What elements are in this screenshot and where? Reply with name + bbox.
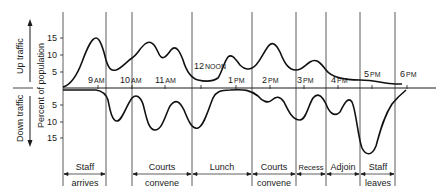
- down-traffic-curve: [63, 90, 406, 154]
- annotation-staff-leaves-bottom: leaves: [365, 178, 392, 188]
- svg-text:10: 10: [47, 50, 57, 60]
- annotation-staff-arrives-bottom: arrives: [71, 178, 99, 188]
- svg-text:9AM: 9AM: [88, 75, 105, 85]
- annotation-courts-convene-top: Courts: [149, 162, 176, 172]
- period-annotations: Staff arrives Courts convene Lunch Court…: [64, 162, 394, 188]
- annotation-recess: Recess: [298, 163, 323, 172]
- annotation-adjoin: Adjoin: [330, 162, 355, 172]
- annotation-courts-convene2-top: Courts: [261, 162, 288, 172]
- svg-text:15: 15: [47, 133, 57, 143]
- svg-text:15: 15: [47, 33, 57, 43]
- annotation-courts-convene2-bottom: convene: [257, 178, 291, 188]
- annotation-staff-arrives-top: Staff: [76, 162, 95, 172]
- annotation-staff-leaves-top: Staff: [369, 162, 388, 172]
- svg-text:11AM: 11AM: [155, 75, 176, 85]
- period-dividers: [63, 12, 395, 186]
- svg-text:2PM: 2PM: [262, 75, 279, 85]
- svg-text:3PM: 3PM: [297, 75, 314, 85]
- svg-text:5: 5: [52, 67, 57, 77]
- percent-population-label: Percent of population: [36, 43, 46, 128]
- y-axis-labels: Up traffic Down traffic Percent of popul…: [13, 19, 46, 147]
- svg-text:10AM: 10AM: [120, 75, 142, 85]
- svg-text:10: 10: [47, 117, 57, 127]
- annotation-courts-convene-bottom: convene: [145, 178, 179, 188]
- svg-text:5PM: 5PM: [364, 69, 381, 79]
- up-traffic-label: Up traffic: [15, 38, 25, 74]
- annotation-lunch: Lunch: [210, 162, 235, 172]
- traffic-chart: Up traffic Down traffic Percent of popul…: [0, 0, 442, 194]
- svg-text:1PM: 1PM: [228, 75, 245, 85]
- down-traffic-label: Down traffic: [15, 94, 25, 142]
- svg-text:6PM: 6PM: [400, 69, 417, 79]
- y-ticks: 15 10 5 5 10 15: [47, 33, 63, 143]
- svg-text:5: 5: [52, 100, 57, 110]
